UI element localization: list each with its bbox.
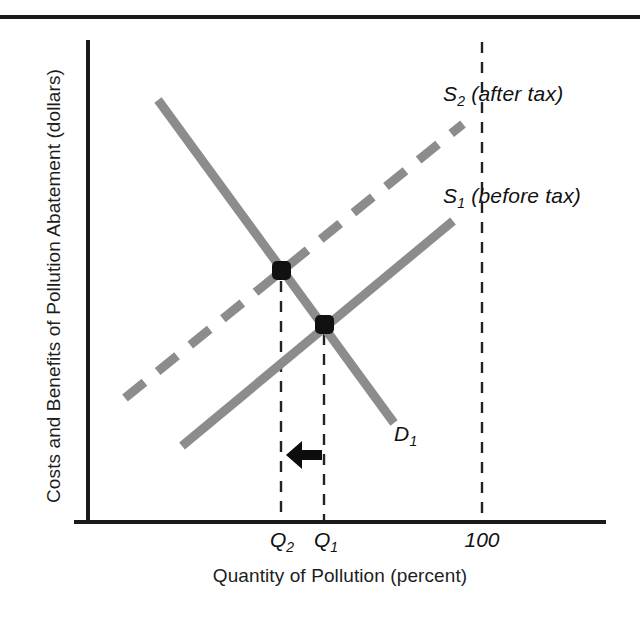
x-tick-q1-symbol: Q bbox=[314, 528, 330, 551]
figure-container: S2 (after tax) S1 (before tax) D1 Q2 Q1 … bbox=[0, 0, 640, 627]
x-tick-q2-symbol: Q bbox=[270, 528, 286, 551]
equilibrium-dot-before-tax bbox=[315, 315, 334, 334]
curve-label-s2-note: (after tax) bbox=[471, 82, 563, 105]
x-tick-label-100: 100 bbox=[458, 528, 506, 552]
curve-label-s1: S1 (before tax) bbox=[443, 184, 581, 211]
curve-label-s2: S2 (after tax) bbox=[443, 82, 563, 109]
curve-label-s1-symbol: S bbox=[443, 184, 457, 207]
curve-label-d1-subscript: 1 bbox=[409, 433, 417, 449]
leftward-shift-arrow bbox=[286, 441, 322, 469]
curve-s1-before-tax bbox=[182, 221, 453, 446]
equilibrium-dot-after-tax bbox=[272, 261, 291, 280]
curve-label-d1-symbol: D bbox=[394, 422, 409, 445]
x-tick-q2-subscript: 2 bbox=[286, 539, 294, 555]
curve-label-s2-subscript: 2 bbox=[457, 93, 465, 109]
y-axis-title: Costs and Benefits of Pollution Abatemen… bbox=[43, 36, 65, 536]
x-tick-label-q2: Q2 bbox=[260, 528, 304, 555]
curve-label-s2-symbol: S bbox=[443, 82, 457, 105]
x-tick-q1-subscript: 1 bbox=[330, 539, 338, 555]
curve-label-d1: D1 bbox=[394, 422, 417, 449]
curve-label-s1-note: (before tax) bbox=[471, 184, 581, 207]
x-tick-label-q1: Q1 bbox=[304, 528, 348, 555]
curve-label-s1-subscript: 1 bbox=[457, 195, 465, 211]
x-axis-title: Quantity of Pollution (percent) bbox=[74, 565, 606, 587]
